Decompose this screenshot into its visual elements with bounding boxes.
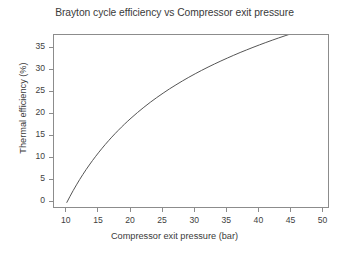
chart-title: Brayton cycle efficiency vs Compressor e… <box>0 7 349 18</box>
x-tick-mark <box>130 208 131 212</box>
y-tick-label: 5 <box>11 173 45 183</box>
plot-area <box>53 34 329 208</box>
y-tick-label: 20 <box>11 107 45 117</box>
chart-figure: Brayton cycle efficiency vs Compressor e… <box>0 0 349 253</box>
y-tick-mark <box>49 47 53 48</box>
x-axis-label: Compressor exit pressure (bar) <box>0 231 349 241</box>
y-tick-label: 10 <box>11 151 45 161</box>
y-tick-mark <box>49 135 53 136</box>
x-tick-label: 50 <box>303 215 343 225</box>
line-series-svg <box>54 35 330 209</box>
y-tick-label: 25 <box>11 85 45 95</box>
y-tick-mark <box>49 157 53 158</box>
x-tick-mark <box>290 208 291 212</box>
y-tick-mark <box>49 91 53 92</box>
y-tick-label: 30 <box>11 63 45 73</box>
y-tick-mark <box>49 69 53 70</box>
x-tick-mark <box>97 208 98 212</box>
y-tick-label: 15 <box>11 129 45 139</box>
y-tick-mark <box>49 113 53 114</box>
x-tick-mark <box>65 208 66 212</box>
y-tick-mark <box>49 179 53 180</box>
y-axis-label: Thermal efficiency (%) <box>18 33 28 183</box>
x-tick-mark <box>258 208 259 212</box>
y-tick-label: 35 <box>11 41 45 51</box>
x-tick-mark <box>226 208 227 212</box>
y-tick-mark <box>49 201 53 202</box>
x-tick-mark <box>162 208 163 212</box>
y-tick-label: 0 <box>11 195 45 205</box>
x-tick-mark <box>322 208 323 212</box>
efficiency-curve <box>67 35 317 202</box>
x-tick-mark <box>194 208 195 212</box>
